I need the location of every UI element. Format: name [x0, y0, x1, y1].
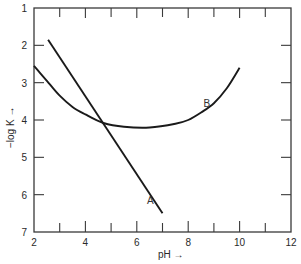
x-axis-label: pH →: [158, 249, 184, 260]
chart: 24681012 1234567 AB pH → −log K →: [0, 0, 301, 264]
x-tick-label: 6: [134, 237, 140, 248]
y-axis-label: −log K →: [5, 107, 16, 148]
x-tick-label: 8: [185, 237, 191, 248]
plot-frame: [34, 8, 291, 232]
y-tick-label: 2: [21, 40, 27, 51]
x-axis-label-text: pH →: [158, 249, 184, 260]
x-tick-label: 2: [31, 237, 37, 248]
x-axis-tick-labels: 24681012: [31, 237, 297, 248]
series-a-label: A: [147, 195, 154, 206]
y-tick-label: 4: [21, 115, 27, 126]
series-labels: AB: [147, 98, 211, 206]
x-tick-label: 12: [285, 237, 297, 248]
y-axis-label-text: −log K →: [5, 107, 16, 148]
series-b-line: [34, 66, 240, 128]
y-tick-label: 3: [21, 78, 27, 89]
y-axis-ticks: [34, 45, 291, 194]
y-tick-label: 7: [21, 227, 27, 238]
x-axis-ticks: [60, 8, 266, 232]
x-tick-label: 10: [234, 237, 246, 248]
series-group: [34, 40, 240, 214]
y-tick-label: 1: [21, 3, 27, 14]
series-b-label: B: [204, 98, 211, 109]
x-tick-label: 4: [83, 237, 89, 248]
y-axis-tick-labels: 1234567: [21, 3, 27, 238]
series-a-line: [48, 40, 162, 214]
y-tick-label: 6: [21, 190, 27, 201]
y-tick-label: 5: [21, 152, 27, 163]
